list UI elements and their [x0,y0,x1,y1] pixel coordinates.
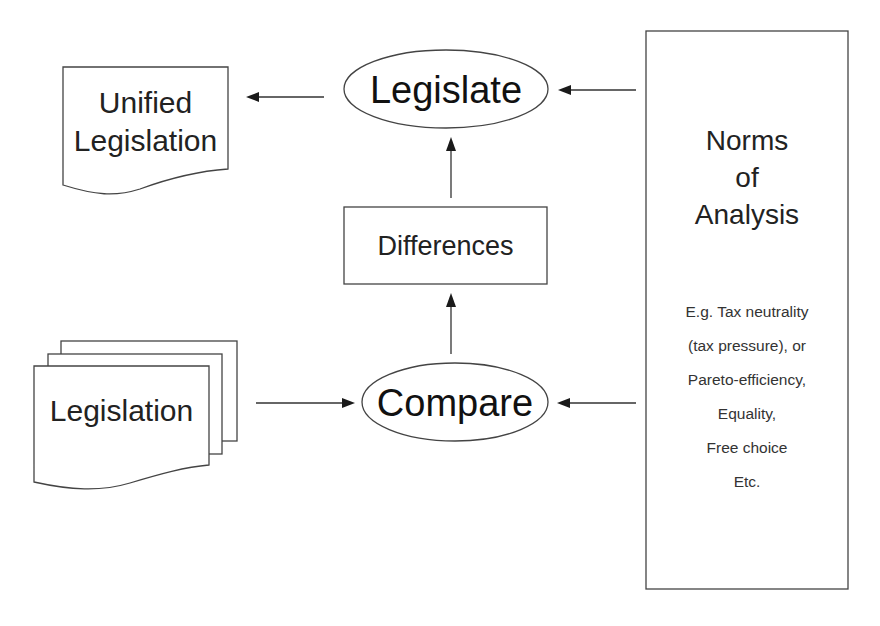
differences-label: Differences [344,233,547,260]
norms-example-item: E.g. Tax neutrality [646,295,848,329]
norms-example-item: Equality, [646,397,848,431]
legislate-label: Legislate [344,71,548,109]
norms-title: Norms of Analysis [646,122,848,233]
arrow-legislate-to-unified [246,92,324,102]
arrow-compare-to-differences [446,293,456,354]
norms-example-item: (tax pressure), or [646,329,848,363]
arrow-norms-to-legislate [558,85,636,95]
compare-label: Compare [362,384,548,422]
norms-example-item: Etc. [646,465,848,499]
unified-legislation-label: Unified Legislation [63,84,228,160]
norms-title-line: of [646,159,848,196]
norms-example-item: Free choice [646,431,848,465]
arrow-norms-to-compare [557,398,636,408]
norms-title-line: Norms [646,122,848,159]
unified-legislation-line2: Legislation [63,122,228,160]
arrow-legislation-to-compare [256,398,355,408]
arrow-differences-to-legislate [446,137,456,198]
norms-examples-list: E.g. Tax neutrality (tax pressure), or P… [646,295,848,499]
norms-example-item: Pareto-efficiency, [646,363,848,397]
legislation-label: Legislation [34,396,209,426]
unified-legislation-line1: Unified [63,84,228,122]
norms-title-line: Analysis [646,196,848,233]
